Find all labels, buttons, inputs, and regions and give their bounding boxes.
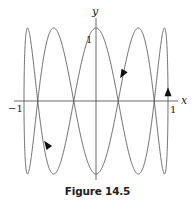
x-tick-one: 1 (170, 104, 176, 115)
x-tick-neg-one: −1 (8, 103, 23, 114)
y-axis-label: y (91, 5, 99, 18)
x-axis-label: x (181, 94, 188, 107)
direction-arrow-icon (165, 87, 172, 96)
figure-caption: Figure 14.5 (0, 185, 195, 197)
y-tick-one: 1 (86, 34, 92, 45)
